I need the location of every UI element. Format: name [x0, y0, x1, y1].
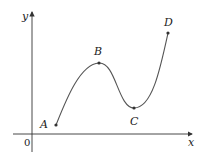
point-c-marker [132, 106, 135, 109]
point-a-marker [54, 123, 57, 126]
point-c-label: C [130, 115, 139, 128]
point-b-label: B [93, 45, 102, 58]
point-a-label: A [39, 118, 48, 131]
y-axis-label: y [21, 10, 29, 23]
point-d-marker [166, 31, 169, 34]
x-axis-label: x [188, 136, 195, 149]
point-d-label: D [163, 16, 173, 29]
origin-label: 0 [24, 137, 30, 148]
function-graph-diagram: y x 0 A B C D [0, 0, 200, 167]
point-b-marker [97, 61, 100, 64]
function-curve [56, 33, 168, 125]
